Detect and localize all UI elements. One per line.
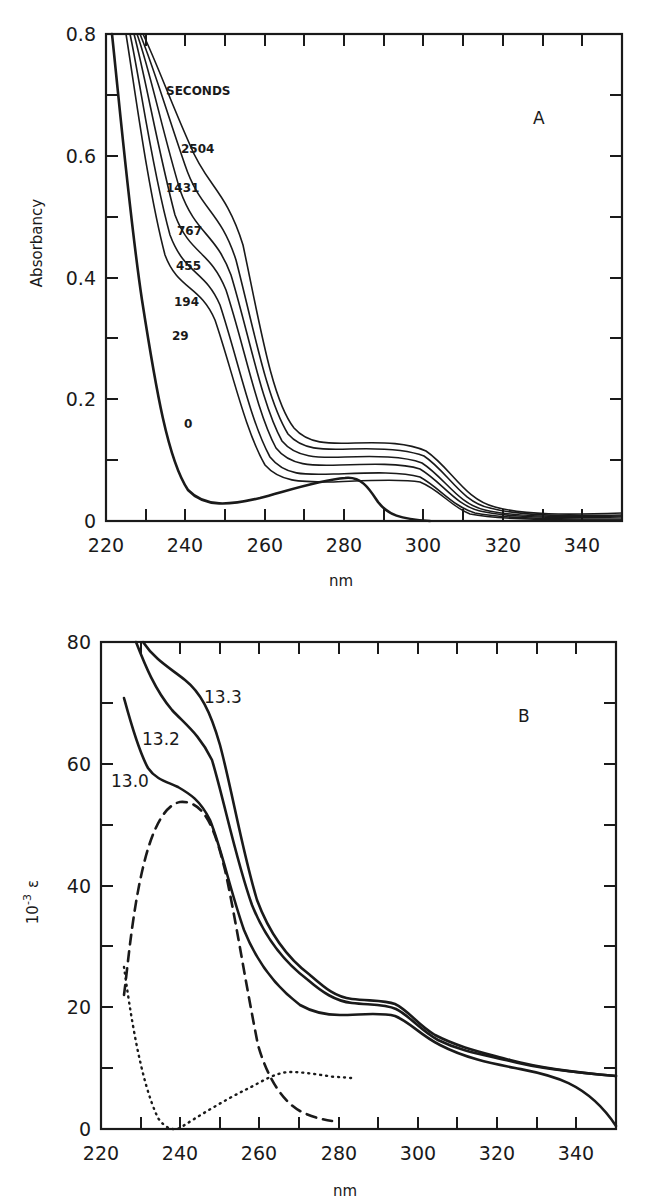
curve-767-seconds (137, 34, 622, 516)
panel-a-y-tick-0.6: 0.6 (66, 145, 96, 167)
curve-13-2 (136, 642, 616, 1076)
panel-b-y-tick-0: 0 (79, 1118, 91, 1140)
panel-b-x-axis-title: nm (333, 1182, 357, 1200)
curve-dashed (124, 802, 332, 1121)
panel-b-y-tick-40: 40 (67, 875, 91, 897)
panel-b-x-tick-220: 220 (83, 1142, 119, 1164)
panel-a-curves (112, 34, 622, 521)
panel-b-x-tick-280: 280 (321, 1142, 357, 1164)
panel-b-x-tick-340: 340 (558, 1142, 594, 1164)
label-29: 29 (172, 329, 189, 343)
panel-b-letter: B (518, 706, 530, 726)
label-0: 0 (184, 417, 192, 431)
y-title-base: 10 (24, 905, 42, 924)
panel-b: 80 60 40 20 0 220 240 260 280 300 320 34… (21, 631, 616, 1200)
panel-b-y-tick-60: 60 (67, 753, 91, 775)
label-767: 767 (177, 224, 202, 238)
svg-text:10-3ε: 10-3ε (21, 880, 42, 924)
panel-b-y-tick-20: 20 (67, 996, 91, 1018)
panel-b-x-tick-320: 320 (479, 1142, 515, 1164)
panel-b-x-ticks (141, 642, 576, 1129)
label-194: 194 (174, 295, 199, 309)
curve-13-0 (124, 698, 616, 1126)
panel-a-y-tick-0.2: 0.2 (66, 388, 96, 410)
panel-a-x-tick-280: 280 (326, 534, 362, 556)
curve-0-seconds (112, 34, 430, 521)
panel-a-y-tick-0: 0 (84, 510, 96, 532)
curve-dotted (124, 967, 352, 1129)
label-2504: 2504 (181, 142, 214, 156)
panel-a-x-tick-260: 260 (247, 534, 283, 556)
panel-a-y-tick-0.4: 0.4 (66, 267, 96, 289)
panel-a: 0.8 0.6 0.4 0.2 0 220 240 260 280 300 32… (28, 23, 622, 590)
panel-b-x-tick-300: 300 (400, 1142, 436, 1164)
curve-194-seconds (130, 34, 622, 519)
curve-13-3 (143, 642, 616, 1076)
legend-title-seconds: SECONDS (166, 84, 231, 98)
panel-a-x-tick-240: 240 (167, 534, 203, 556)
panel-a-x-tick-300: 300 (405, 534, 441, 556)
panel-a-x-axis-title: nm (329, 572, 353, 590)
y-title-exponent: -3 (21, 894, 34, 905)
panel-a-letter: A (533, 108, 545, 128)
panel-b-curves (124, 642, 616, 1129)
curve-2504-seconds (143, 34, 622, 514)
panel-a-y-tick-0.8: 0.8 (66, 23, 96, 45)
panel-a-x-tick-340: 340 (564, 534, 600, 556)
label-13-2: 13.2 (142, 729, 180, 749)
panel-b-x-tick-240: 240 (162, 1142, 198, 1164)
panel-b-x-tick-260: 260 (241, 1142, 277, 1164)
y-title-symbol: ε (24, 880, 42, 888)
label-13-3: 13.3 (204, 687, 242, 707)
panel-a-x-tick-320: 320 (485, 534, 521, 556)
panel-a-x-tick-220: 220 (88, 534, 124, 556)
label-455: 455 (176, 259, 201, 273)
label-1431: 1431 (166, 181, 199, 195)
panel-a-y-axis-title: Absorbancy (28, 199, 46, 287)
panel-b-y-tick-80: 80 (67, 631, 91, 653)
figure: 0.8 0.6 0.4 0.2 0 220 240 260 280 300 32… (0, 0, 645, 1203)
panel-b-y-axis-title: 10-3ε (21, 880, 42, 924)
label-13-0: 13.0 (111, 771, 149, 791)
curve-455-seconds (134, 34, 622, 517)
